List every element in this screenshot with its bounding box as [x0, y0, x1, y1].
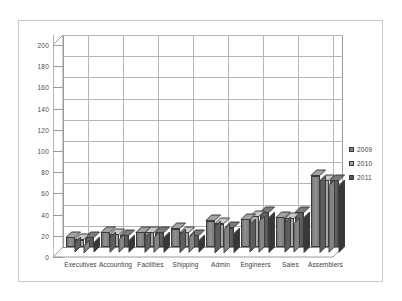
x-axis-label: Admin	[211, 261, 230, 268]
bar-group	[203, 35, 238, 247]
bar	[66, 237, 75, 247]
y-axis-tick-label: 100	[38, 148, 49, 155]
legend-swatch-icon	[349, 147, 354, 152]
bar-front-face	[171, 229, 180, 247]
x-axis-label: Assemblers	[308, 261, 343, 268]
bar-front-face	[101, 232, 110, 247]
legend-label: 2009	[357, 146, 372, 153]
y-axis-tick-label: 20	[41, 232, 49, 239]
bars-layer	[63, 35, 343, 247]
y-axis-tick-label: 180	[38, 63, 49, 70]
bar-group	[98, 35, 133, 247]
bar-group	[63, 35, 98, 247]
legend-swatch-icon	[349, 161, 354, 166]
y-axis-tick-label: 140	[38, 105, 49, 112]
y-axis-tick-label: 120	[38, 126, 49, 133]
legend-item[interactable]: 2010	[349, 159, 389, 167]
bar	[136, 232, 145, 247]
bar	[101, 232, 110, 247]
y-axis-tick-label: 40	[41, 211, 49, 218]
chart-legend: 200920102011	[349, 145, 389, 187]
x-axis-labels: ExecutivesAccountingFacilitiesShippingAd…	[53, 261, 353, 275]
y-axis-tick-label: 80	[41, 169, 49, 176]
bar-group	[273, 35, 308, 247]
bar-group	[133, 35, 168, 247]
x-axis-label: Shipping	[172, 261, 198, 268]
bar-front-face	[136, 232, 145, 247]
bar-group	[168, 35, 203, 247]
x-axis-label: Executives	[64, 261, 96, 268]
bar	[171, 229, 180, 247]
bar-group	[238, 35, 273, 247]
bar	[241, 219, 250, 247]
bar-front-face	[311, 176, 320, 247]
bar-front-face	[66, 237, 75, 247]
bar	[206, 221, 215, 248]
y-axis-tick-label: 0	[45, 254, 49, 261]
bar-group	[308, 35, 343, 247]
plot-area: 020406080100120140160180200	[53, 35, 343, 257]
legend-item[interactable]: 2009	[349, 145, 389, 153]
x-axis-label: Accounting	[99, 261, 132, 268]
bar	[276, 217, 285, 247]
bar-front-face	[276, 217, 285, 247]
legend-label: 2010	[357, 160, 372, 167]
y-axis-tick-label: 60	[41, 190, 49, 197]
bar	[311, 176, 320, 247]
y-axis-wall	[53, 35, 63, 257]
x-axis-label: Facilities	[137, 261, 163, 268]
chart-container: 020406080100120140160180200 ExecutivesAc…	[18, 20, 383, 282]
legend-label: 2011	[357, 174, 372, 181]
x-axis-label: Sales	[282, 261, 299, 268]
legend-swatch-icon	[349, 175, 354, 180]
y-axis-tick-label: 160	[38, 84, 49, 91]
bar-front-face	[206, 221, 215, 248]
bar-front-face	[241, 219, 250, 247]
y-axis-tick-label: 200	[38, 42, 49, 49]
x-axis-label: Engineers	[240, 261, 270, 268]
legend-item[interactable]: 2011	[349, 173, 389, 181]
